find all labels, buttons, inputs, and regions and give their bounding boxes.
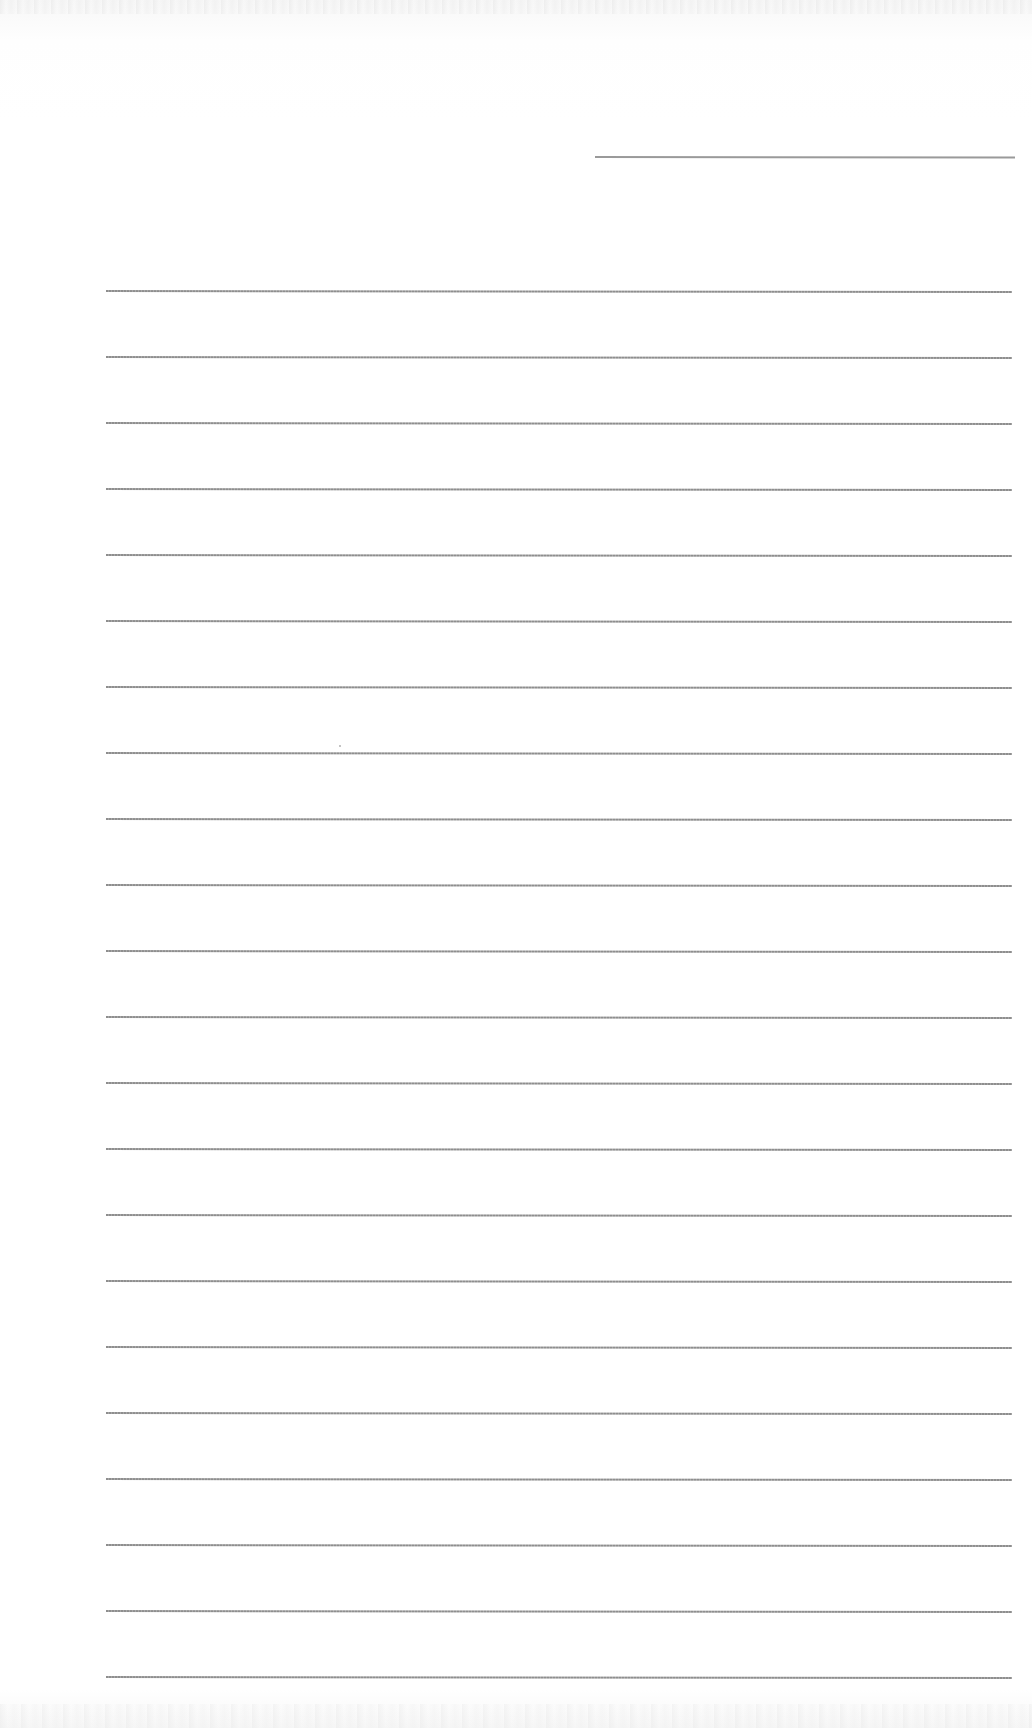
ruled-line bbox=[106, 884, 1012, 886]
scan-edge-top bbox=[0, 0, 1032, 14]
ruled-line bbox=[106, 1280, 1012, 1282]
ruled-line bbox=[106, 686, 1012, 688]
header-line bbox=[595, 156, 1015, 159]
ruled-line bbox=[106, 1412, 1012, 1414]
ruled-line bbox=[106, 950, 1012, 952]
ruled-line bbox=[106, 488, 1012, 490]
ruled-line bbox=[106, 1478, 1012, 1480]
scan-speck bbox=[339, 745, 341, 747]
ruled-line bbox=[106, 422, 1012, 424]
ruled-line bbox=[106, 1544, 1012, 1546]
ruled-line bbox=[106, 752, 1012, 754]
ruled-line bbox=[106, 1346, 1012, 1348]
ruled-line bbox=[106, 1610, 1012, 1612]
scan-edge-bottom bbox=[0, 1704, 1032, 1728]
ruled-line bbox=[106, 356, 1012, 358]
ruled-line bbox=[106, 1148, 1012, 1150]
ruled-line bbox=[106, 554, 1012, 556]
ruled-line bbox=[106, 290, 1012, 292]
ruled-line bbox=[106, 1082, 1012, 1084]
ruled-line bbox=[106, 1214, 1012, 1216]
ruled-line bbox=[106, 1016, 1012, 1018]
ruled-line bbox=[106, 818, 1012, 820]
ruled-line bbox=[106, 1676, 1012, 1678]
ruled-line bbox=[106, 620, 1012, 622]
lined-paper-page bbox=[0, 0, 1032, 1728]
